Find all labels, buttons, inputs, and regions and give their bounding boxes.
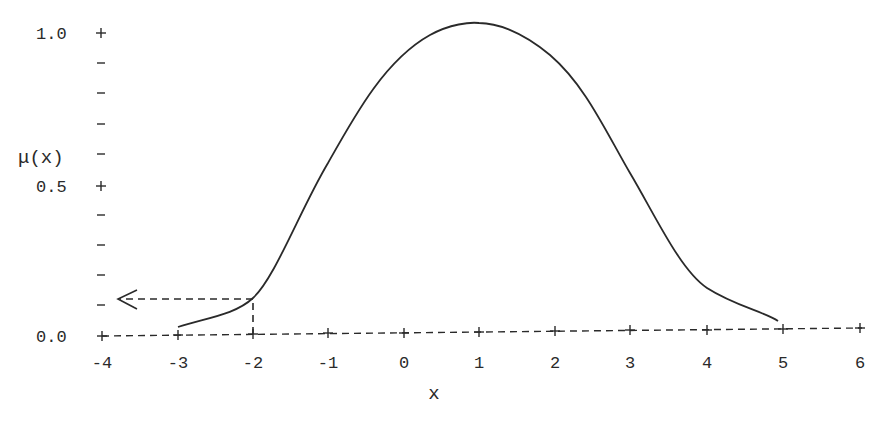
x-tick-label: 5 <box>778 354 788 373</box>
x-tick-label: 3 <box>625 354 635 373</box>
y-tick-label-0.0: 0.0 <box>36 328 67 347</box>
x-tick-label: 2 <box>550 354 560 373</box>
x-axis-ticks <box>97 323 865 341</box>
membership-curve <box>178 23 778 327</box>
x-axis-title: x <box>428 383 439 405</box>
x-tick-labels: -4 -3 -2 -1 0 1 2 3 4 5 6 <box>92 354 865 373</box>
membership-function-chart: μ(x) 1.0 0.5 0.0 -4 -3 <box>0 0 887 421</box>
y-tick-label-1.0: 1.0 <box>36 25 67 44</box>
x-tick-label: -2 <box>243 354 263 373</box>
x-tick-label: 0 <box>399 354 409 373</box>
y-axis-title: μ(x) <box>18 147 64 169</box>
x-tick-label: 1 <box>474 354 484 373</box>
x-tick-label: -3 <box>168 354 188 373</box>
x-tick-label: 4 <box>702 354 712 373</box>
y-tick-label-0.5: 0.5 <box>36 178 67 197</box>
x-tick-label: -4 <box>92 354 112 373</box>
x-tick-label: 6 <box>855 354 865 373</box>
x-tick-label: -1 <box>318 354 338 373</box>
y-axis-ticks <box>96 28 106 305</box>
